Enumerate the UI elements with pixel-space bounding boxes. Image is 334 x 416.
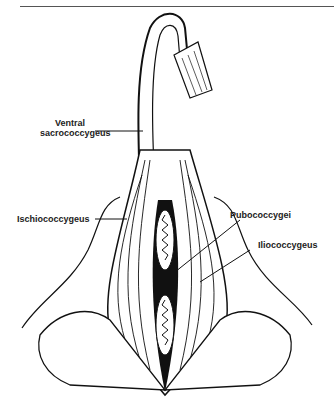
label-ventral-line1: Ventral	[40, 118, 100, 128]
label-pubococcygei: Pubococcygei	[230, 210, 291, 220]
label-ventral-line2: sacrococcygeus	[40, 128, 100, 138]
label-ventral: Ventral sacrococcygeus	[40, 118, 100, 138]
anatomical-illustration	[0, 0, 334, 416]
label-iliococcygeus: Iliococcygeus	[258, 240, 318, 250]
label-ischiococcygeus: Ischiococcygeus	[17, 214, 90, 224]
